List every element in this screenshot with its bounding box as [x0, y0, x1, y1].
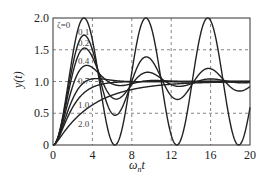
y-tick-label: 0 — [43, 138, 49, 152]
y-tick-label: 0.5 — [34, 106, 49, 120]
x-tick-label: 16 — [205, 148, 217, 162]
y-tick-label: 1.0 — [34, 75, 49, 89]
label-zeta-2.0: 2.0 — [78, 119, 90, 129]
x-tick-label: 20 — [244, 148, 256, 162]
label-zeta-0.1: 0.1 — [78, 27, 89, 37]
y-tick-label: 1.5 — [34, 43, 49, 57]
step-response-chart: 04812162000.51.01.52.0 ζ=0 0.1 0.2 0.4 0… — [0, 0, 265, 182]
x-tick-label: 0 — [50, 148, 56, 162]
x-tick-label: 4 — [89, 148, 95, 162]
label-zeta-1.0: 1.0 — [78, 100, 90, 110]
x-tick-label: 12 — [165, 148, 177, 162]
y-tick-label: 2.0 — [34, 11, 49, 25]
label-zeta-0.4: 0.4 — [78, 56, 90, 66]
label-zeta-0.7: 0.7 — [78, 76, 90, 86]
y-axis-label: y(t) — [11, 71, 25, 89]
x-axis-label: ωnt — [129, 158, 145, 174]
label-zeta-0: ζ=0 — [57, 20, 71, 30]
label-zeta-0.2: 0.2 — [78, 38, 89, 48]
